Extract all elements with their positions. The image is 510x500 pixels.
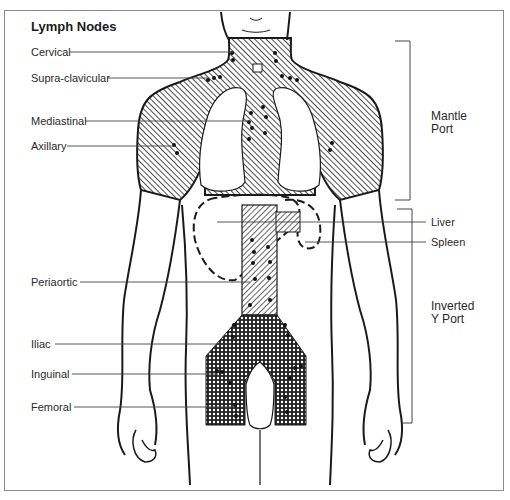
inverted-y-port-label: Inverted Y Port [431, 300, 474, 326]
label-mediastinal: Mediastinal [31, 115, 87, 127]
label-spleen: Spleen [431, 236, 465, 248]
label-femoral: Femoral [31, 401, 71, 413]
hands [133, 430, 391, 462]
inverted-y-field [206, 205, 306, 485]
inverted-y-port-line2: Y Port [431, 313, 474, 326]
mantle-port-label: Mantle Port [431, 110, 467, 136]
label-axillary: Axillary [31, 140, 66, 152]
label-liver: Liver [431, 216, 455, 228]
mantle-field [137, 38, 383, 200]
mantle-port-line2: Port [431, 123, 467, 136]
diagram-title: Lymph Nodes [31, 19, 116, 34]
label-inguinal: Inguinal [31, 368, 70, 380]
label-iliac: Iliac [31, 338, 51, 350]
label-cervical: Cervical [31, 46, 71, 58]
label-supraclavicular: Supra-clavicular [31, 72, 110, 84]
head-outline [221, 12, 290, 40]
label-periaortic: Periaortic [31, 276, 77, 288]
